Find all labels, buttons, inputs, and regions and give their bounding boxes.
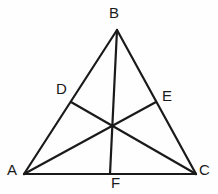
segment-median-BF bbox=[110, 30, 117, 174]
vertex-label-E: E bbox=[162, 88, 172, 103]
vertex-label-B: B bbox=[109, 5, 119, 20]
vertex-label-F: F bbox=[111, 175, 120, 190]
vertex-label-C: C bbox=[199, 162, 210, 177]
vertex-label-A: A bbox=[7, 162, 17, 177]
geometry-figure: A B C D E F bbox=[0, 0, 218, 194]
triangle-diagram-canvas bbox=[0, 0, 218, 194]
vertex-label-D: D bbox=[56, 81, 67, 96]
